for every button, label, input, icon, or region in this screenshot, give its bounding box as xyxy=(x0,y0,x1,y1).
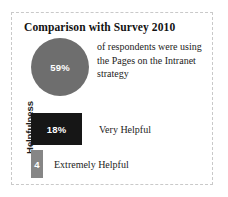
bar-value-label: 4 xyxy=(34,159,39,170)
bar-chart: Helpfulness 18% Very Helpful 4 Extremely… xyxy=(12,105,214,185)
bar-very-helpful: 18% xyxy=(31,113,82,145)
bar-category-label: Extremely Helpful xyxy=(54,159,129,170)
bar-category-label: Very Helpful xyxy=(99,124,151,135)
page-title: Comparison with Survey 2010 xyxy=(24,21,175,33)
bar-row: 4 Extremely Helpful xyxy=(31,150,129,178)
circle-stat-caption: of respondents were using the Pages on t… xyxy=(97,40,209,81)
bar-value-label: 18% xyxy=(47,124,67,135)
bar-row: 18% Very Helpful xyxy=(31,113,151,145)
circle-stat: 59% xyxy=(31,38,89,96)
bar-extremely-helpful: 4 xyxy=(31,150,43,178)
infographic-card: Comparison with Survey 2010 59% of respo… xyxy=(11,12,213,185)
circle-stat-value: 59% xyxy=(50,62,70,73)
